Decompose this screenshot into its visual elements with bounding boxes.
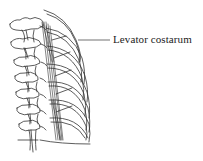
label-levator-costarum: Levator costarum [113, 33, 192, 45]
vertebral-column [10, 18, 47, 153]
anatomy-figure: Levator costarum [0, 0, 203, 161]
spine-rib-illustration [0, 0, 203, 161]
ribs [40, 10, 90, 144]
